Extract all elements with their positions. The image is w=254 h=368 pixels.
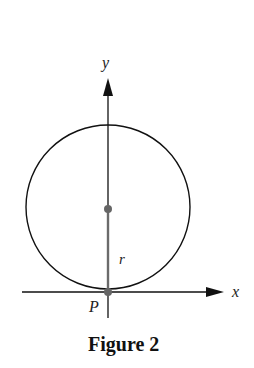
- x-axis-arrow-icon: [206, 287, 224, 297]
- y-axis-label: y: [100, 54, 110, 72]
- y-axis-arrow-icon: [103, 78, 113, 96]
- x-axis-label: x: [231, 283, 239, 300]
- point-p: [104, 288, 112, 296]
- figure-caption: Figure 2: [88, 333, 159, 356]
- center-point: [104, 205, 112, 213]
- radius-label: r: [119, 251, 125, 267]
- circle-diagram: y x r P Figure 2: [0, 0, 254, 368]
- point-p-label: P: [88, 298, 99, 315]
